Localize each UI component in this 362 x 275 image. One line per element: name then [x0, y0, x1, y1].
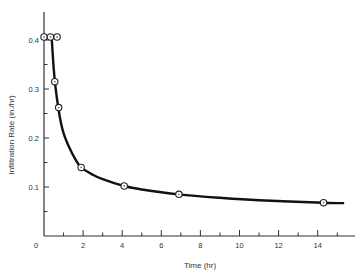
y-tick-label: 0.1: [29, 183, 39, 192]
data-point-center: [43, 36, 45, 38]
y-tick-label: 0.4: [29, 36, 39, 45]
fitted-curve-path: [52, 40, 343, 203]
x-tick-label: 12: [274, 241, 282, 250]
x-tick-label: 4: [120, 241, 124, 250]
x-tick-label: 8: [198, 241, 202, 250]
data-point-center: [54, 81, 56, 83]
data-point-center: [58, 107, 60, 109]
x-tick-label: 14: [314, 241, 322, 250]
x-tick-label: 2: [81, 241, 85, 250]
y-tick-label: 0.2: [29, 134, 39, 143]
data-point-center: [123, 185, 125, 187]
data-points: [41, 34, 327, 206]
data-point-center: [178, 193, 180, 195]
y-axis-title: Infiltration Rate (in./hr): [7, 95, 16, 174]
axes: 024681012140.10.20.30.4: [29, 12, 355, 250]
data-point-center: [50, 36, 52, 38]
fitted-curve: [52, 40, 343, 203]
y-tick-label: 0.3: [29, 85, 39, 94]
x-tick-label: 10: [235, 241, 243, 250]
data-point-center: [323, 202, 325, 204]
infiltration-chart: 024681012140.10.20.30.4 Time (hr) Infilt…: [0, 0, 362, 275]
data-point-center: [56, 36, 58, 38]
x-tick-label: 0: [34, 241, 38, 250]
x-tick-label: 6: [159, 241, 163, 250]
x-axis-title: Time (hr): [184, 261, 216, 270]
data-point-center: [80, 167, 82, 169]
